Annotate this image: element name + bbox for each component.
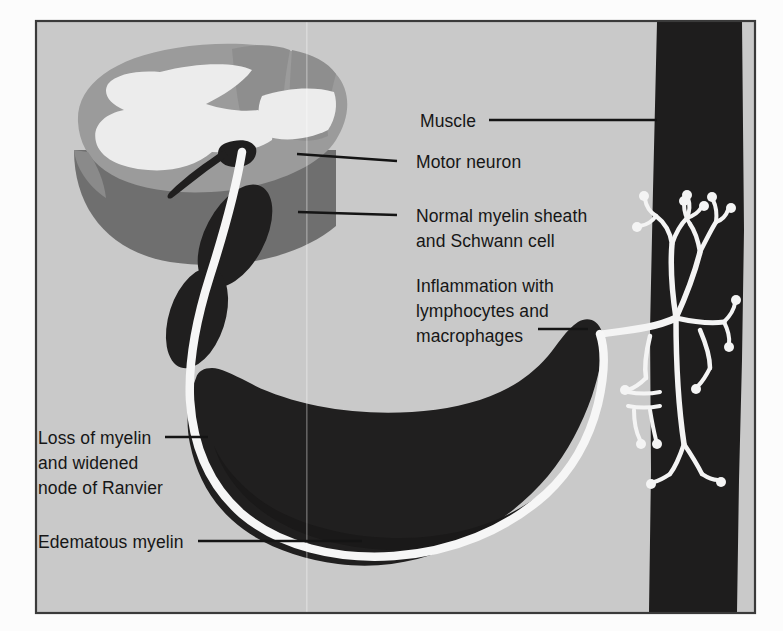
illustration-plate — [37, 22, 754, 612]
label-loss-of-myelin-line3: node of Ranvier — [38, 478, 163, 498]
label-muscle: Muscle — [420, 111, 476, 131]
illustration-canvas: Muscle Motor neuron Normal myelin sheath… — [0, 0, 783, 631]
label-inflammation-line3: macrophages — [416, 326, 523, 346]
label-loss-of-myelin-line1: Loss of myelin — [38, 428, 151, 448]
label-inflammation-line1: Inflammation with — [416, 276, 554, 296]
label-edematous-myelin: Edematous myelin — [38, 532, 184, 552]
label-motor-neuron: Motor neuron — [416, 152, 521, 172]
label-normal-myelin-line1: Normal myelin sheath — [416, 206, 587, 226]
label-loss-of-myelin-line2: and widened — [38, 453, 138, 473]
label-inflammation-line2: lymphocytes and — [416, 301, 549, 321]
label-normal-myelin-line2: and Schwann cell — [416, 231, 555, 251]
figure-root: Muscle Motor neuron Normal myelin sheath… — [0, 0, 783, 631]
